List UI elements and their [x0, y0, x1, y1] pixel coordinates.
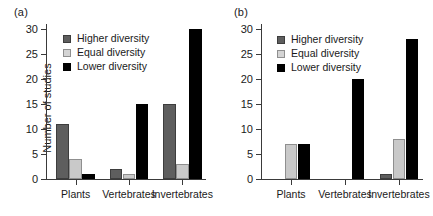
legend-label-equal: Equal diversity	[77, 46, 145, 60]
y-tick-label: 10	[26, 123, 38, 135]
y-tick-label: 30	[26, 23, 38, 35]
y-tick-mark	[256, 129, 261, 130]
bar-plants-equal	[285, 144, 298, 179]
y-tick-mark	[256, 154, 261, 155]
y-tick-label: 10	[241, 123, 253, 135]
y-tick-label: 20	[241, 73, 253, 85]
panel-a-legend: Higher diversity Equal diversity Lower d…	[63, 32, 149, 74]
x-tick-mark	[129, 180, 130, 185]
y-tick-mark	[256, 79, 261, 80]
y-tick-mark	[41, 154, 46, 155]
x-tick-label: Plants	[276, 188, 305, 200]
y-tick-mark	[256, 29, 261, 30]
legend-item-lower: Lower diversity	[277, 61, 363, 75]
bar-invertebrates-higher	[163, 104, 176, 179]
y-tick-label: 30	[241, 23, 253, 35]
legend-item-equal: Equal diversity	[63, 46, 149, 60]
x-tick-label: Invertebrates	[368, 188, 429, 200]
panel-b-label: (b)	[234, 6, 248, 18]
panel-b-y-axis-line	[261, 24, 262, 180]
y-tick-mark	[41, 179, 46, 180]
y-tick-mark	[41, 129, 46, 130]
panel-b-legend: Higher diversity Equal diversity Lower d…	[277, 33, 363, 75]
panel-a-label: (a)	[14, 6, 28, 18]
legend-label-higher: Higher diversity	[77, 32, 149, 46]
y-tick-mark	[41, 29, 46, 30]
y-tick-mark	[256, 179, 261, 180]
legend-swatch-lower-icon	[63, 63, 71, 71]
legend-swatch-equal-icon	[277, 50, 285, 58]
legend-swatch-equal-icon	[63, 49, 71, 57]
y-tick-mark	[41, 54, 46, 55]
legend-swatch-higher-icon	[63, 35, 71, 43]
y-tick-label: 15	[241, 98, 253, 110]
y-tick-mark	[41, 79, 46, 80]
legend-label-lower: Lower diversity	[291, 61, 361, 75]
legend-label-lower: Lower diversity	[77, 60, 147, 74]
x-tick-label: Vertebrates	[102, 188, 156, 200]
legend-swatch-lower-icon	[277, 64, 285, 72]
bar-invertebrates-lower	[189, 29, 202, 179]
y-tick-label: 5	[247, 148, 253, 160]
bar-vertebrates-lower	[352, 79, 365, 179]
bar-invertebrates-lower	[406, 39, 419, 179]
legend-item-equal: Equal diversity	[277, 47, 363, 61]
x-tick-mark	[76, 180, 77, 185]
bar-vertebrates-lower	[136, 104, 149, 179]
x-tick-mark	[399, 180, 400, 185]
y-tick-label: 20	[26, 73, 38, 85]
y-tick-label: 0	[247, 173, 253, 185]
legend-item-higher: Higher diversity	[277, 33, 363, 47]
bar-invertebrates-equal	[393, 139, 406, 179]
panel-a-y-axis-line	[46, 24, 47, 180]
y-tick-label: 5	[32, 148, 38, 160]
y-tick-label: 25	[26, 48, 38, 60]
x-tick-mark	[182, 180, 183, 185]
x-tick-mark	[345, 180, 346, 185]
x-tick-mark	[291, 180, 292, 185]
bar-vertebrates-equal	[123, 174, 136, 179]
legend-swatch-higher-icon	[277, 36, 285, 44]
legend-item-higher: Higher diversity	[63, 32, 149, 46]
bar-invertebrates-equal	[176, 164, 189, 179]
y-tick-mark	[41, 104, 46, 105]
y-tick-mark	[256, 54, 261, 55]
y-tick-mark	[256, 104, 261, 105]
legend-item-lower: Lower diversity	[63, 60, 149, 74]
bar-invertebrates-higher	[380, 174, 393, 179]
panel-b: (b) 051015202530 PlantsVertebratesInvert…	[217, 0, 433, 216]
legend-label-equal: Equal diversity	[291, 47, 359, 61]
bar-plants-lower	[82, 174, 95, 179]
bar-plants-equal	[69, 159, 82, 179]
bar-plants-lower	[298, 144, 311, 179]
x-tick-label: Vertebrates	[318, 188, 372, 200]
y-tick-label: 0	[32, 173, 38, 185]
x-tick-label: Invertebrates	[152, 188, 213, 200]
bar-plants-higher	[56, 124, 69, 179]
y-tick-label: 25	[241, 48, 253, 60]
figure: (a) Number of studies 051015202530 Plant…	[0, 0, 433, 216]
bar-vertebrates-higher	[110, 169, 123, 179]
legend-label-higher: Higher diversity	[291, 33, 363, 47]
y-tick-label: 15	[26, 98, 38, 110]
x-tick-label: Plants	[61, 188, 90, 200]
panel-a: (a) Number of studies 051015202530 Plant…	[0, 0, 216, 216]
